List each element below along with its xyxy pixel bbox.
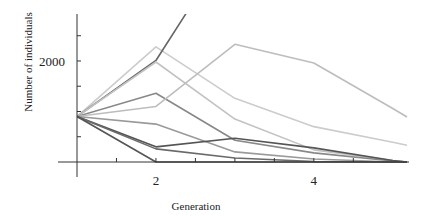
series-line-run-3 [77, 62, 407, 162]
x-axis-title: Generation [172, 200, 221, 212]
series-line-run-4 [77, 93, 407, 162]
series-line-run-1 [77, 47, 407, 145]
y-tick-label: 2000 [39, 54, 65, 69]
x-tick-label: 2 [153, 173, 160, 188]
y-ticks [77, 36, 81, 137]
y-axis-title: Number of individuals [22, 12, 34, 112]
y-tick-labels: 2000 [39, 54, 65, 69]
x-tick-labels: 24 [153, 173, 318, 188]
series-layer [77, 0, 407, 162]
series-line-run-2 [77, 0, 235, 117]
x-tick-label: 4 [311, 173, 318, 188]
series-line-run-7 [77, 117, 407, 162]
line-chart: 24 2000 Generation Number of individuals [0, 0, 429, 217]
